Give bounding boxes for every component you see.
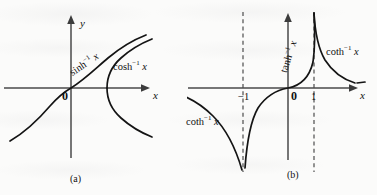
label-coth-inverse-right-exponent: −1 bbox=[344, 44, 351, 51]
label-cosh-inverse-variable: x bbox=[142, 61, 147, 72]
panel-b-origin-label: 0 bbox=[291, 90, 297, 102]
label-coth-inverse-right-base: coth bbox=[326, 46, 344, 57]
curve-coth-inverse-left bbox=[187, 93, 242, 170]
panel-a-caption: (a) bbox=[70, 174, 81, 184]
label-coth-inverse-left-variable: x bbox=[214, 116, 219, 127]
label-coth-inverse-left-exponent: −1 bbox=[204, 114, 211, 121]
curve-tanh-inverse bbox=[245, 13, 315, 168]
label-coth-inverse-left: coth−1 x bbox=[186, 115, 219, 127]
hyperbolic-inverse-figure: y x 0 sinh−1 x cosh−1 x (a) x 0 −1 1 ta bbox=[0, 0, 377, 195]
label-cosh-inverse-exponent: −1 bbox=[132, 59, 139, 66]
panel-b-xtick-plus-1: 1 bbox=[311, 92, 316, 103]
panel-b-caption: (b) bbox=[287, 170, 299, 180]
panel-b-y-axis bbox=[284, 13, 292, 160]
panel-a-y-axis-label: y bbox=[80, 18, 85, 29]
panel-b-x-axis bbox=[188, 84, 358, 92]
label-tanh-inverse-exponent: −1 bbox=[282, 46, 291, 55]
label-coth-inverse-left-base: coth bbox=[186, 116, 204, 127]
panel-b-plot bbox=[187, 0, 377, 195]
label-cosh-inverse-base: cosh bbox=[113, 61, 132, 72]
panel-a-origin-label: 0 bbox=[62, 90, 68, 102]
panel-a-x-axis bbox=[4, 84, 150, 92]
curve-cosh-inverse-lower bbox=[107, 88, 152, 137]
label-cosh-inverse: cosh−1 x bbox=[113, 60, 147, 72]
panel-a-plot bbox=[0, 0, 190, 195]
coth-right-tail-stub bbox=[357, 82, 365, 83]
panel-a-x-axis-label: x bbox=[153, 90, 158, 101]
panel-b-x-axis-label: x bbox=[360, 90, 365, 101]
label-coth-inverse-right: coth−1 x bbox=[326, 45, 359, 57]
label-coth-inverse-right-variable: x bbox=[354, 46, 359, 57]
panel-b-xtick-minus-1: −1 bbox=[238, 92, 249, 103]
